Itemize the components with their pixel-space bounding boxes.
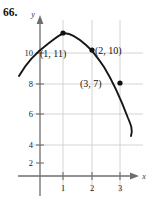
problem-number: 66. xyxy=(3,6,18,18)
y-tick-label-2: 2 xyxy=(29,158,33,168)
horizontal-gridlines xyxy=(33,53,143,145)
x-tick-label-2: 2 xyxy=(90,183,94,193)
graph-figure: 10 8 6 4 2 1 2 3 y x (1, 11) (2, 10) (3,… xyxy=(0,0,148,199)
x-tick-label-1: 1 xyxy=(61,183,65,193)
y-tick-label-6: 6 xyxy=(29,109,33,119)
data-point-3-7 xyxy=(117,80,122,85)
axes xyxy=(18,15,139,196)
point-label-2-10: (2, 10) xyxy=(95,45,122,57)
x-tick-label-3: 3 xyxy=(118,183,122,193)
x-axis-label: x xyxy=(141,172,146,181)
data-point-2-10 xyxy=(89,47,94,52)
data-point-1-11 xyxy=(60,30,65,35)
y-axis-arrowhead xyxy=(37,15,44,24)
point-label-1-11: (1, 11) xyxy=(40,48,66,60)
y-axis-label: y xyxy=(30,10,35,19)
y-tick-label-10: 10 xyxy=(25,48,34,58)
parabola-plot: 10 8 6 4 2 1 2 3 y x (1, 11) (2, 10) (3,… xyxy=(0,0,148,199)
point-label-3-7: (3, 7) xyxy=(80,78,102,90)
x-axis-arrowhead xyxy=(130,173,139,180)
y-tick-label-8: 8 xyxy=(29,79,33,89)
x-axis-tick-labels: 1 2 3 xyxy=(61,183,122,193)
